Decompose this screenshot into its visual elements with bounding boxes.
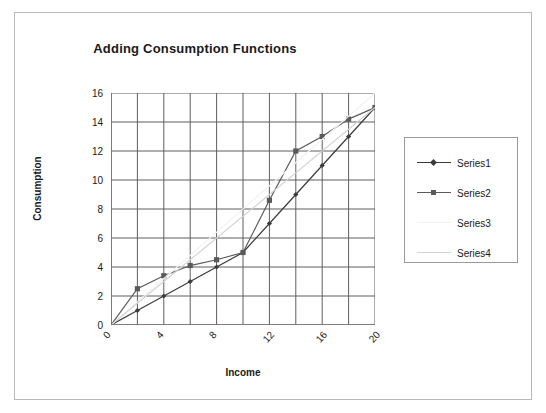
data-point-series2 — [293, 148, 298, 153]
data-point-series2 — [135, 286, 140, 291]
data-point-series2 — [267, 198, 272, 203]
y-tick-label: 8 — [97, 204, 103, 215]
legend-line — [417, 222, 451, 223]
y-tick-label: 0 — [97, 320, 103, 331]
y-tick-label: 10 — [92, 175, 103, 186]
data-point-series1 — [161, 293, 166, 298]
legend-item-series1[interactable]: Series1 — [405, 150, 517, 176]
legend-label: Series4 — [457, 248, 491, 259]
y-tick-label: 14 — [92, 117, 103, 128]
y-tick-label: 4 — [97, 262, 103, 273]
x-axis-title: Income — [111, 367, 375, 378]
legend-label: Series2 — [457, 188, 491, 199]
legend-marker-diamond-icon — [430, 159, 437, 166]
legend-item-series2[interactable]: Series2 — [405, 180, 517, 206]
legend-swatch-icon — [415, 246, 453, 260]
chart-svg — [111, 93, 375, 325]
data-point-series1 — [188, 279, 193, 284]
chart-frame: Adding Consumption Functions Consumption… — [14, 12, 532, 400]
legend-swatch-icon — [415, 186, 453, 200]
plot-area — [111, 93, 375, 325]
legend-swatch-icon — [415, 156, 453, 170]
y-tick-label: 6 — [97, 233, 103, 244]
x-tick-label: 8 — [206, 329, 218, 340]
legend-label: Series3 — [457, 218, 491, 229]
chart-legend: Series1Series2Series3Series4 — [404, 137, 518, 263]
data-point-series1 — [214, 264, 219, 269]
legend-label: Series1 — [457, 158, 491, 169]
chart-title: Adding Consumption Functions — [15, 41, 375, 56]
data-point-series2 — [188, 263, 193, 268]
legend-line — [417, 252, 451, 253]
x-tick-label: 4 — [154, 329, 166, 340]
y-tick-label: 2 — [97, 291, 103, 302]
x-tick-label: 12 — [261, 329, 277, 345]
y-axis-title: Consumption — [32, 134, 43, 244]
x-axis-tick-labels: 048121620 — [111, 329, 391, 363]
data-point-series1 — [135, 308, 140, 313]
legend-item-series3[interactable]: Series3 — [405, 210, 517, 236]
y-tick-label: 12 — [92, 146, 103, 157]
y-tick-label: 16 — [92, 88, 103, 99]
legend-marker-square-icon — [431, 190, 436, 195]
y-axis-tick-labels: 0246810121416 — [75, 93, 109, 325]
x-tick-label: 20 — [367, 329, 383, 345]
legend-item-series4[interactable]: Series4 — [405, 240, 517, 266]
x-tick-label: 16 — [314, 329, 330, 345]
legend-swatch-icon — [415, 216, 453, 230]
data-point-series2 — [214, 257, 219, 262]
x-tick-label: 0 — [101, 329, 113, 340]
data-point-series2 — [240, 250, 245, 255]
